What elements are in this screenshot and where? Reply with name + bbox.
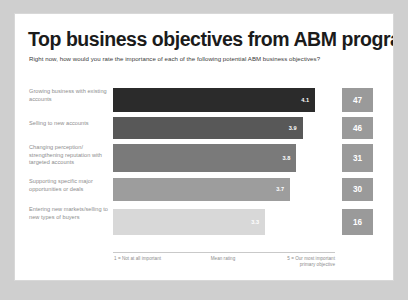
bar-chart: Growing business with existing accounts4… [15,86,394,281]
score-badge: 46 [342,117,373,139]
chart-bar [113,88,315,112]
score-badge: 30 [342,178,373,201]
page-title: Top business objectives from ABM program… [28,28,394,51]
axis-line [113,252,335,253]
category-label: Selling to new accounts [29,120,109,128]
score-badge: 31 [342,144,373,172]
bar-value-label: 3.8 [274,155,290,161]
chart-bar [113,144,296,172]
category-label: Entering new markets/selling to new type… [29,206,109,221]
chart-bar [113,117,303,139]
slide-card: Top business objectives from ABM program… [14,13,394,281]
bar-value-label: 3.9 [281,125,297,131]
category-label: Changing perception/ strengthening reput… [29,144,109,167]
bar-value-label: 4.1 [293,97,309,103]
bar-value-label: 3.7 [268,186,284,192]
slide-subtitle: Right now, how would you rate the import… [29,55,320,62]
axis-label-min: 1 = Not at all important [114,256,174,262]
category-label: Supporting specific major opportunities … [29,178,109,193]
bar-value-label: 3.3 [243,219,259,225]
score-badge: 16 [342,209,373,235]
category-label: Growing business with existing accounts [29,88,109,103]
axis-label-mean: Mean rating [193,256,253,262]
score-badge: 47 [342,88,373,112]
chart-bar [113,178,290,201]
axis-label-max: 5 = Our most important primary objective [273,256,335,268]
